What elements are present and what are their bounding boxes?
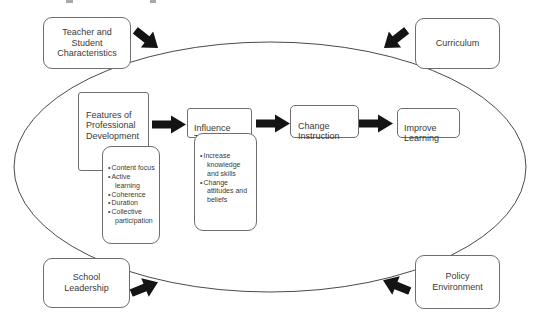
bullet-item: Change attitudes and beliefs xyxy=(200,179,254,205)
influence-details-list: Increase knowledge and skillsChange atti… xyxy=(200,152,254,205)
change-instruction-label: Change Instruction xyxy=(298,121,340,142)
features-of-pd-label: Features of Professional Development xyxy=(86,110,139,141)
bullet-item: Coherence xyxy=(108,191,157,200)
diagram-canvas: Teacher and Student Characteristics Curr… xyxy=(0,0,538,329)
bullet-item: Collective participation xyxy=(108,208,157,226)
improve-learning-label: Improve Learning xyxy=(404,123,439,144)
features-details-box: Content focusActive learningCoherenceDur… xyxy=(102,146,160,244)
bullet-item: Duration xyxy=(108,199,157,208)
change-instruction-box: Change Instruction xyxy=(290,105,359,138)
school-leadership-box: School Leadership xyxy=(43,258,130,308)
teacher-student-characteristics-box: Teacher and Student Characteristics xyxy=(43,17,131,69)
influence-details-box: Increase knowledge and skillsChange atti… xyxy=(194,133,257,231)
features-details-list: Content focusActive learningCoherenceDur… xyxy=(108,164,157,225)
bullet-item: Content focus xyxy=(108,164,157,173)
policy-environment-box: Policy Environment xyxy=(415,255,500,309)
improve-learning-box: Improve Learning xyxy=(397,108,460,138)
arrow-influence-to-change-icon xyxy=(256,114,291,133)
curriculum-label: Curriculum xyxy=(436,38,480,49)
teacher-student-characteristics-label: Teacher and Student Characteristics xyxy=(57,27,117,59)
bullet-item: Increase knowledge and skills xyxy=(200,152,254,178)
bullet-item: Active learning xyxy=(108,173,157,191)
school-leadership-label: School Leadership xyxy=(64,272,109,293)
arrow-features-to-influence-icon xyxy=(152,115,187,134)
arrow-change-to-improve-icon xyxy=(359,114,394,133)
curriculum-box: Curriculum xyxy=(415,18,500,69)
policy-environment-label: Policy Environment xyxy=(432,271,483,292)
